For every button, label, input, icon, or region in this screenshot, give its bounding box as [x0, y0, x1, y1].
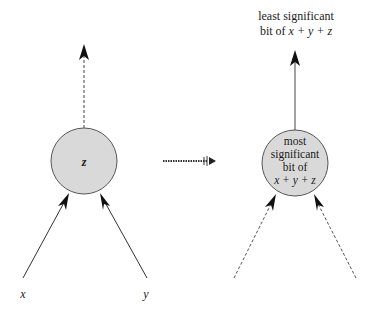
input-y-line [102, 197, 147, 278]
transform-arrowhead-icon [209, 157, 216, 165]
right-node-label-line2: significant [271, 148, 320, 161]
input-y-arrowhead-icon [100, 193, 110, 210]
input-y-label: y [142, 287, 149, 301]
transform-arrow [163, 156, 216, 166]
input-x-label: x [19, 287, 26, 301]
right-input-left-dashed-line [234, 200, 273, 278]
full-adder-diagram: z x y least significant bit of x + y + z… [0, 0, 373, 310]
left-node-label: z [81, 155, 87, 169]
right-node-label-line1: most [284, 135, 307, 147]
output-label-line2: bit of x + y + z [260, 24, 333, 38]
right-node-label-line4: x + y + z [273, 174, 316, 187]
right-input-right-arrowhead-icon [314, 194, 324, 211]
right-input-left-arrowhead-icon [265, 194, 276, 211]
input-x-line [23, 197, 67, 278]
right-node-group: least significant bit of x + y + z most … [234, 9, 356, 278]
right-node-label-line3: bit of [283, 161, 308, 173]
right-input-right-dashed-line [316, 200, 356, 278]
left-node-group: z x y [19, 44, 149, 301]
input-x-arrowhead-icon [58, 193, 69, 210]
output-label-line1: least significant [258, 9, 334, 23]
